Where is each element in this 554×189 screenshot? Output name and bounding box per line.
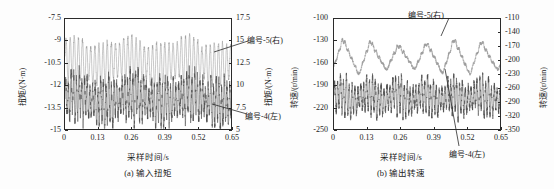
annotation-series-4-a: 编号-4(左) — [245, 110, 281, 121]
tick-mark — [334, 18, 337, 19]
tick-mark — [498, 18, 501, 19]
y-tick-label-left-b: -190 — [295, 81, 328, 89]
tick-mark — [498, 130, 501, 131]
plot-area-a — [64, 18, 232, 130]
x-tick-label-b: 0.39 — [427, 134, 441, 142]
tick-mark — [334, 108, 337, 109]
panel-caption-a: (a) 输入扭矩 — [64, 166, 232, 178]
tick-mark — [198, 127, 199, 130]
panel-input-torque: -7.5-9-10.5-12-13.5-15 17.51512.5107.55 … — [0, 0, 277, 189]
y-tick-label-left-b: -100 — [295, 14, 328, 22]
tick-mark — [467, 127, 468, 130]
tick-mark — [65, 108, 68, 109]
x-axis-title-a: 采样时间/s — [64, 150, 232, 162]
y-tick-label-left-a: -9 — [30, 36, 61, 44]
y-tick-label-right-b: -320 — [505, 112, 520, 120]
x-tick-label-a: 0.52 — [191, 134, 205, 142]
y-tick-label-right-b: -140 — [505, 28, 520, 36]
y-tick-label-left-a: -13.5 — [30, 104, 61, 112]
tick-mark — [98, 127, 99, 130]
tick-mark — [434, 127, 435, 130]
panel-caption-b: (b) 输出转速 — [317, 166, 485, 178]
tick-mark — [65, 85, 68, 86]
x-tick-label-b: 0.26 — [393, 134, 407, 142]
x-tick-label-b: 0 — [331, 134, 335, 142]
tick-mark — [229, 130, 232, 131]
y-tick-label-left-b: -220 — [295, 104, 328, 112]
y-tick-label-left-a: -7.5 — [30, 14, 61, 22]
x-tick-label-a: 0.65 — [225, 134, 239, 142]
tick-mark — [334, 85, 337, 86]
y-tick-label-left-b: -250 — [295, 126, 328, 134]
x-tick-label-b: 0.13 — [360, 134, 374, 142]
x-tick-label-a: 0 — [62, 134, 66, 142]
y-axis-right-title-b: 转速/(r/min) — [537, 67, 548, 108]
tick-mark — [498, 116, 501, 117]
tick-mark — [165, 127, 166, 130]
tick-mark — [229, 85, 232, 86]
tick-mark — [65, 130, 68, 131]
y-tick-label-right-b: -290 — [505, 98, 520, 106]
tick-mark — [232, 127, 233, 130]
tick-mark — [498, 74, 501, 75]
figure-root: -7.5-9-10.5-12-13.5-15 17.51512.5107.55 … — [0, 0, 554, 189]
tick-mark — [498, 60, 501, 61]
y-tick-label-left-a: -10.5 — [30, 59, 61, 67]
y-tick-label-right-b: -170 — [505, 42, 520, 50]
tick-mark — [65, 40, 68, 41]
y-axis-right-title-a: 扭矩/(N·m) — [262, 68, 273, 106]
y-tick-label-right-a: 10 — [236, 81, 244, 89]
y-tick-label-left-b: -130 — [295, 36, 328, 44]
x-tick-label-b: 0.52 — [460, 134, 474, 142]
panel-output-speed: -100-130-160-190-220-250 -110-140-170-20… — [277, 0, 554, 189]
y-tick-label-right-a: 15 — [236, 36, 244, 44]
tick-mark — [131, 127, 132, 130]
series-trace — [334, 38, 500, 76]
y-axis-left-title-a: 扭矩/(N·m) — [16, 68, 27, 106]
y-tick-label-left-b: -160 — [295, 59, 328, 67]
series-trace — [65, 33, 231, 92]
tick-mark — [65, 63, 68, 64]
annotation-series-4-b: 编号-4(左) — [449, 148, 485, 159]
tick-mark — [64, 127, 65, 130]
tick-mark — [229, 63, 232, 64]
plot-area-b — [333, 18, 501, 130]
x-tick-label-a: 0.39 — [158, 134, 172, 142]
x-tick-label-a: 0.26 — [124, 134, 138, 142]
y-tick-label-right-a: 17.5 — [236, 14, 250, 22]
y-tick-label-left-a: -15 — [30, 126, 61, 134]
plot-canvas-b — [334, 19, 500, 129]
tick-mark — [333, 127, 334, 130]
series-trace — [334, 72, 500, 122]
tick-mark — [498, 88, 501, 89]
tick-mark — [229, 108, 232, 109]
tick-mark — [498, 32, 501, 33]
x-tick-label-b: 0.65 — [494, 134, 508, 142]
tick-mark — [334, 40, 337, 41]
tick-mark — [65, 18, 68, 19]
tick-mark — [367, 127, 368, 130]
tick-mark — [501, 127, 502, 130]
tick-mark — [334, 63, 337, 64]
tick-mark — [498, 46, 501, 47]
plot-canvas-a — [65, 19, 231, 129]
tick-mark — [400, 127, 401, 130]
y-tick-label-right-b: -230 — [505, 70, 520, 78]
y-tick-label-right-b: -110 — [505, 14, 519, 22]
annotation-series-5-b: 编号-5(右) — [408, 9, 444, 20]
tick-mark — [498, 102, 501, 103]
tick-mark — [334, 130, 337, 131]
x-tick-label-a: 0.13 — [91, 134, 105, 142]
tick-mark — [229, 40, 232, 41]
y-tick-label-right-a: 12.5 — [236, 59, 250, 67]
series-trace — [65, 65, 231, 128]
y-axis-left-title-b: 转速/(r/min) — [288, 67, 299, 108]
tick-mark — [229, 18, 232, 19]
y-tick-label-right-b: -260 — [505, 84, 520, 92]
y-tick-label-left-a: -12 — [30, 81, 61, 89]
y-tick-label-right-b: -200 — [505, 56, 520, 64]
